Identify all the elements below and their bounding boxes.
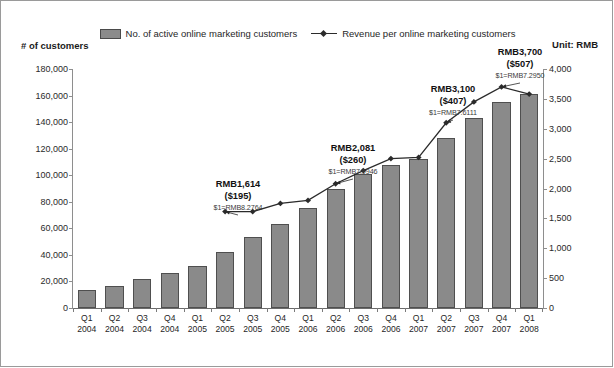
x-axis-label: Q42004 [160, 313, 179, 335]
x-axis-tick-mark [156, 308, 157, 312]
y-axis-left-tick-label: 60,000 [40, 223, 68, 233]
annotation-usd-value: ($260) [298, 155, 408, 167]
x-axis-label: Q22004 [105, 313, 124, 335]
x-axis-label-quarter: Q4 [492, 313, 511, 324]
chart-annotation: RMB3,700($507)$1=RMB7.2950 [465, 47, 575, 82]
bar [161, 273, 179, 308]
bar [216, 252, 234, 308]
y-axis-left-tick-mark [69, 228, 73, 229]
bar [78, 290, 96, 308]
x-axis-label: Q42005 [271, 313, 290, 335]
x-axis-label-quarter: Q1 [298, 313, 317, 324]
x-axis-label-year: 2005 [271, 324, 290, 335]
x-axis-label: Q12007 [409, 313, 428, 335]
y-axis-left-tick-label: 0 [63, 303, 68, 313]
x-axis-label-year: 2004 [77, 324, 96, 335]
y-axis-left-tick-label: 80,000 [40, 197, 68, 207]
x-axis-line [72, 308, 544, 309]
bar [354, 174, 372, 308]
bar [492, 102, 510, 308]
x-axis-label-quarter: Q4 [271, 313, 290, 324]
y-axis-right-tick-label: 500 [549, 273, 564, 283]
y-axis-right-tick-label: 0 [549, 303, 554, 313]
annotation-rmb-value: RMB3,700 [465, 47, 575, 59]
x-axis-label-quarter: Q3 [354, 313, 373, 324]
x-axis-label-quarter: Q3 [133, 313, 152, 324]
annotation-rmb-value: RMB3,100 [398, 84, 508, 96]
bar-swatch-icon [100, 29, 121, 39]
y-axis-left-tick-mark [69, 281, 73, 282]
x-axis-label: Q32005 [243, 313, 262, 335]
y-axis-left-tick-mark [69, 69, 73, 70]
y-axis-right-tick-label: 1,000 [549, 243, 572, 253]
x-axis-label: Q12006 [298, 313, 317, 335]
x-axis-label-quarter: Q1 [77, 313, 96, 324]
x-axis-tick-mark [128, 308, 129, 312]
y-axis-right-tick-label: 1,500 [549, 213, 572, 223]
x-axis-tick-mark [460, 308, 461, 312]
x-axis-label: Q22006 [326, 313, 345, 335]
x-axis-label-quarter: Q1 [409, 313, 428, 324]
x-axis-label-year: 2007 [464, 324, 483, 335]
x-axis-label-year: 2006 [381, 324, 400, 335]
bar [382, 165, 400, 308]
bar [271, 224, 289, 308]
y-axis-left-tick-label: 160,000 [35, 91, 68, 101]
y-axis-right-tick-label: 3,500 [549, 94, 572, 104]
y-axis-right-tick-mark [543, 99, 547, 100]
x-axis-label: Q22005 [215, 313, 234, 335]
x-axis-tick-mark [211, 308, 212, 312]
bar [299, 208, 317, 308]
y-axis-right-tick-mark [543, 159, 547, 160]
y-axis-left-tick-label: 180,000 [35, 64, 68, 74]
annotation-rmb-value: RMB2,081 [298, 143, 408, 155]
x-axis-label-year: 2004 [133, 324, 152, 335]
y-axis-right-tick-mark [543, 278, 547, 279]
x-axis-tick-mark [432, 308, 433, 312]
line-data-point [333, 181, 339, 187]
y-axis-right-tick-label: 3,000 [549, 124, 572, 134]
y-axis-right-tick-label: 2,000 [549, 184, 572, 194]
x-axis-label-quarter: Q2 [437, 313, 456, 324]
x-axis-label: Q32004 [133, 313, 152, 335]
x-axis-label-quarter: Q3 [464, 313, 483, 324]
line-data-point [305, 197, 311, 203]
line-marker-icon [311, 30, 337, 38]
x-axis-label-quarter: Q1 [520, 313, 539, 324]
x-axis-tick-mark [377, 308, 378, 312]
x-axis-label-year: 2006 [354, 324, 373, 335]
bar [327, 189, 345, 309]
line-data-point [443, 120, 449, 126]
legend-item-line: Revenue per online marketing customers [311, 28, 515, 39]
chart-frame: No. of active online marketing customers… [0, 0, 613, 367]
annotation-usd-value: ($507) [465, 59, 575, 71]
annotation-fx-rate: $1=RMB7.6111 [398, 107, 508, 119]
x-axis-label: Q42007 [492, 313, 511, 335]
x-axis-label-quarter: Q1 [188, 313, 207, 324]
annotation-fx-rate: $1=RMB7.2950 [465, 70, 575, 82]
bar [520, 94, 538, 308]
x-axis-label-year: 2006 [326, 324, 345, 335]
y-axis-left-tick-label: 20,000 [40, 276, 68, 286]
x-axis-tick-mark [405, 308, 406, 312]
x-axis-label-quarter: Q2 [105, 313, 124, 324]
y-axis-right-tick-label: 2,500 [549, 154, 572, 164]
bar [409, 159, 427, 308]
y-axis-left-tick-mark [69, 202, 73, 203]
annotation-usd-value: ($195) [183, 191, 293, 203]
y-axis-left-tick-mark [69, 175, 73, 176]
x-axis-tick-mark [294, 308, 295, 312]
chart-annotation: RMB1,614($195)$1=RMB8.2764 [183, 179, 293, 214]
x-axis-label: Q12004 [77, 313, 96, 335]
x-axis-tick-mark [101, 308, 102, 312]
x-axis-tick-mark [488, 308, 489, 312]
x-axis-tick-mark [184, 308, 185, 312]
x-axis-label-year: 2005 [188, 324, 207, 335]
annotation-fx-rate: $1=RMB7.9946 [298, 166, 408, 178]
x-axis-label: Q12005 [188, 313, 207, 335]
y-axis-right-tick-mark [543, 248, 547, 249]
x-axis-label-quarter: Q2 [215, 313, 234, 324]
y-axis-right-tick-mark [543, 189, 547, 190]
y-axis-right-tick-mark [543, 129, 547, 130]
annotation-rmb-value: RMB1,614 [183, 179, 293, 191]
